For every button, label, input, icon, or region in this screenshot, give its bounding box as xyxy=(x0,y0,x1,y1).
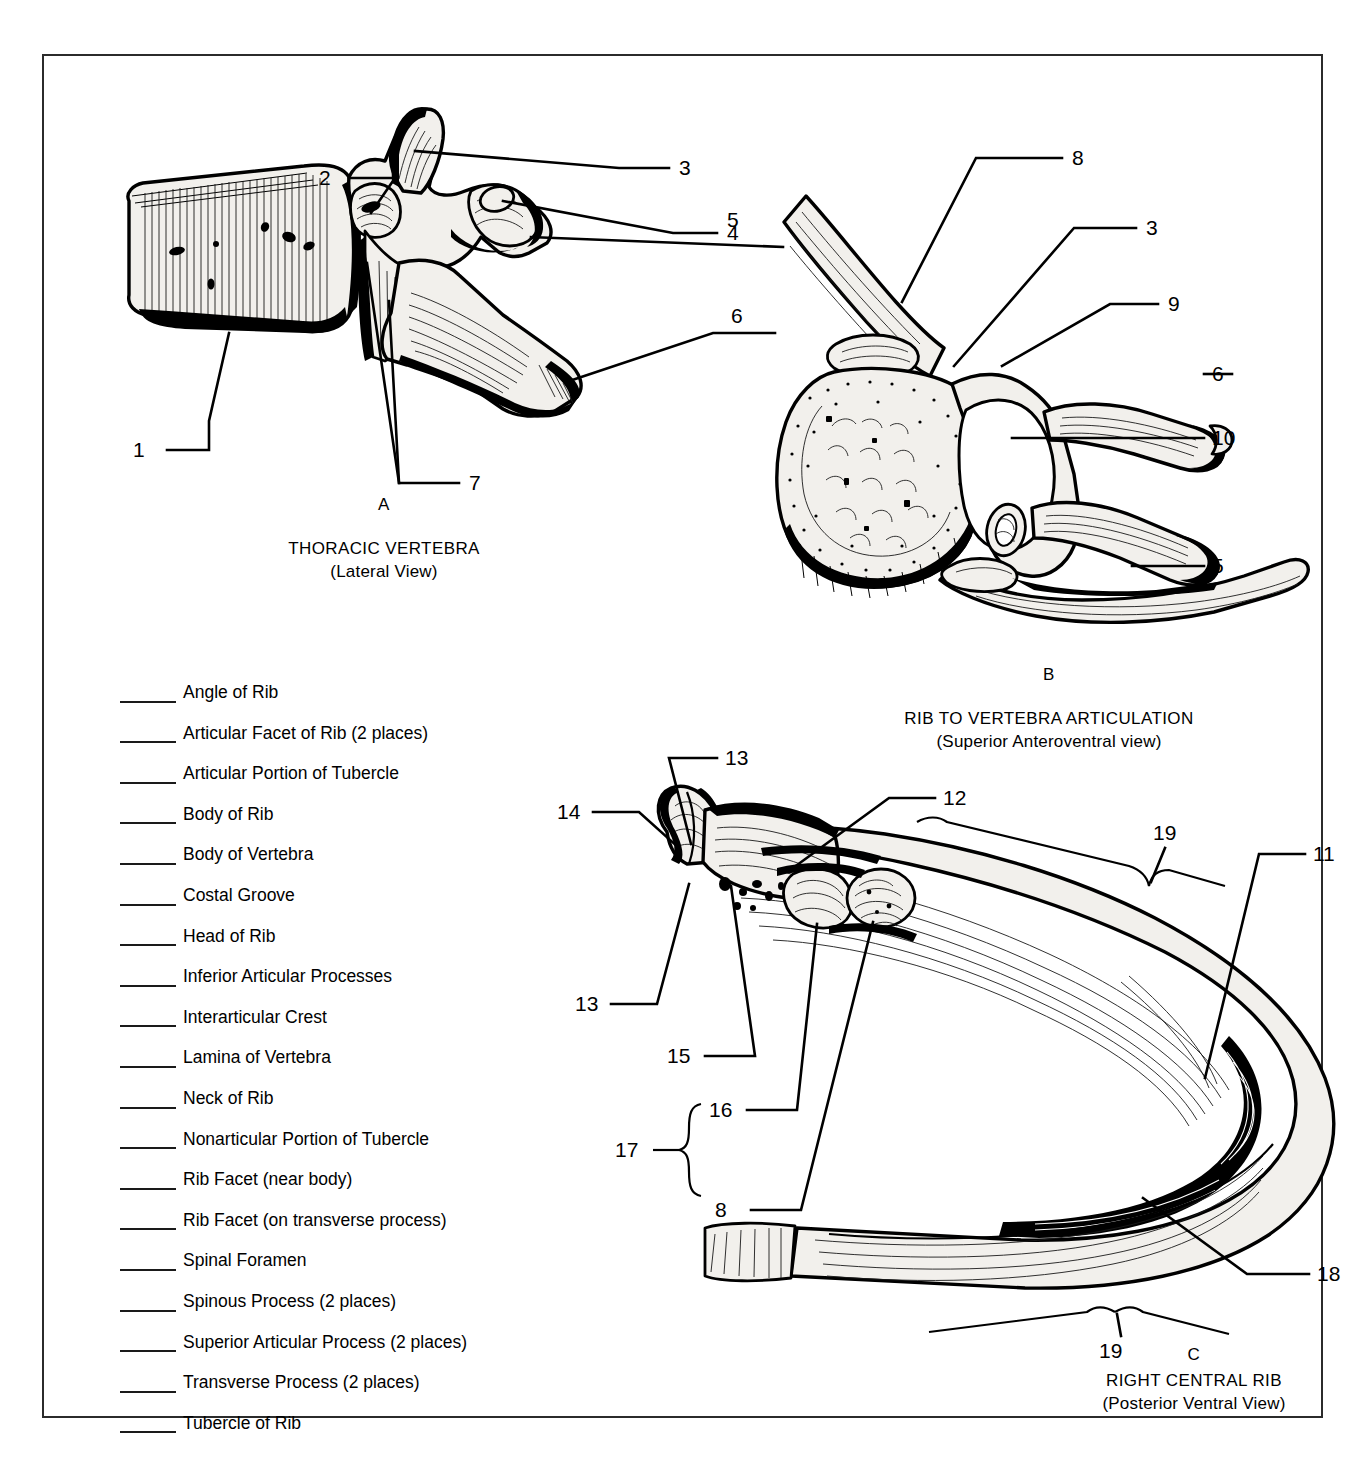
answer-label-13: Rib Facet (on transverse process) xyxy=(176,1212,447,1231)
answer-label-3: Body of Rib xyxy=(176,806,273,825)
answer-label-14: Spinal Foramen xyxy=(176,1252,307,1271)
answer-label-17: Transverse Process (2 places) xyxy=(176,1374,420,1393)
figure-b-letter: B xyxy=(884,664,1214,686)
callout-2: 2 xyxy=(319,166,331,189)
answer-label-11: Nonarticular Portion of Tubercle xyxy=(176,1131,429,1150)
answer-label-12: Rib Facet (near body) xyxy=(176,1171,352,1190)
answer-label-7: Inferior Articular Processes xyxy=(176,968,392,987)
figure-c-subtitle: (Posterior Ventral View) xyxy=(1044,1393,1344,1415)
figure-b-drawing: 8 3 9 6 10 5 xyxy=(744,126,1324,636)
answer-blank-18[interactable] xyxy=(120,1415,176,1433)
answer-label-2: Articular Portion of Tubercle xyxy=(176,765,399,784)
answer-row: Interarticular Crest xyxy=(120,987,590,1028)
answer-row: Angle of Rib xyxy=(120,662,590,703)
figure-a-thoracic-vertebra-lateral: 1 2 3 4 5 6 7 xyxy=(99,61,789,481)
answer-blank-3[interactable] xyxy=(120,806,176,824)
answer-label-18: Tubercle of Rib xyxy=(176,1415,301,1434)
answer-row: Nonarticular Portion of Tubercle xyxy=(120,1109,590,1150)
figure-a-title: THORACIC VERTEBRA xyxy=(274,538,494,560)
callout-18: 18 xyxy=(1317,1262,1340,1285)
answer-blank-13[interactable] xyxy=(120,1212,176,1230)
figure-c-letter: C xyxy=(1044,1344,1344,1366)
answer-label-6: Head of Rib xyxy=(176,928,275,947)
answer-blank-10[interactable] xyxy=(120,1091,176,1109)
answer-row: Body of Vertebra xyxy=(120,824,590,865)
callout-3: 3 xyxy=(679,156,691,179)
callout-6: 6 xyxy=(731,304,743,327)
answer-term-list: Angle of Rib Articular Facet of Rib (2 p… xyxy=(120,662,590,1433)
answer-label-9: Lamina of Vertebra xyxy=(176,1049,331,1068)
answer-blank-7[interactable] xyxy=(120,969,176,987)
answer-blank-0[interactable] xyxy=(120,685,176,703)
answer-blank-14[interactable] xyxy=(120,1253,176,1271)
figure-a-subtitle: (Lateral View) xyxy=(274,561,494,583)
figure-a-caption: A THORACIC VERTEBRA (Lateral View) xyxy=(274,494,494,583)
figure-c-right-central-rib: 13 12 14 19 11 13 15 16 8 xyxy=(529,736,1329,1346)
answer-row: Body of Rib xyxy=(120,784,590,825)
answer-label-5: Costal Groove xyxy=(176,887,295,906)
answer-blank-9[interactable] xyxy=(120,1050,176,1068)
callout-b-6: 6 xyxy=(1212,362,1224,385)
worksheet-frame: 1 2 3 4 5 6 7 A THORACIC VERTEBRA (Later… xyxy=(42,54,1323,1418)
figure-c-drawing: 13 12 14 19 11 13 15 16 8 xyxy=(529,736,1329,1346)
answer-row: Lamina of Vertebra xyxy=(120,1027,590,1068)
answer-row: Articular Facet of Rib (2 places) xyxy=(120,703,590,744)
answer-blank-5[interactable] xyxy=(120,888,176,906)
callout-19-upper: 19 xyxy=(1153,821,1176,844)
answer-row: Inferior Articular Processes xyxy=(120,946,590,987)
figure-c-caption: C RIGHT CENTRAL RIB (Posterior Ventral V… xyxy=(1044,1344,1344,1415)
callout-17: 17 xyxy=(615,1138,638,1161)
figure-a-letter: A xyxy=(274,494,494,516)
figure-b-rib-to-vertebra-articulation: 8 3 9 6 10 5 xyxy=(744,126,1324,636)
answer-blank-8[interactable] xyxy=(120,1009,176,1027)
answer-blank-16[interactable] xyxy=(120,1334,176,1352)
callout-5: 5 xyxy=(727,208,739,231)
callout-1: 1 xyxy=(133,438,145,461)
answer-blank-1[interactable] xyxy=(120,725,176,743)
callout-11: 11 xyxy=(1313,842,1335,865)
callout-b-3: 3 xyxy=(1146,216,1158,239)
answer-row: Superior Articular Process (2 places) xyxy=(120,1312,590,1353)
callout-15: 15 xyxy=(667,1044,690,1067)
answer-label-8: Interarticular Crest xyxy=(176,1009,327,1028)
answer-label-0: Angle of Rib xyxy=(176,684,278,703)
answer-row: Rib Facet (on transverse process) xyxy=(120,1190,590,1231)
answer-label-15: Spinous Process (2 places) xyxy=(176,1293,396,1312)
answer-label-1: Articular Facet of Rib (2 places) xyxy=(176,725,428,744)
answer-blank-2[interactable] xyxy=(120,766,176,784)
callout-8: 8 xyxy=(1072,146,1084,169)
callout-12: 12 xyxy=(943,786,966,809)
figure-a-drawing: 1 2 3 4 5 6 7 xyxy=(99,61,789,481)
figure-c-title: RIGHT CENTRAL RIB xyxy=(1044,1370,1344,1392)
answer-row: Rib Facet (near body) xyxy=(120,1149,590,1190)
answer-row: Tubercle of Rib xyxy=(120,1393,590,1434)
answer-blank-17[interactable] xyxy=(120,1375,176,1393)
answer-row: Head of Rib xyxy=(120,906,590,947)
answer-blank-12[interactable] xyxy=(120,1172,176,1190)
answer-blank-11[interactable] xyxy=(120,1131,176,1149)
answer-label-10: Neck of Rib xyxy=(176,1090,273,1109)
answer-label-4: Body of Vertebra xyxy=(176,846,313,865)
answer-row: Neck of Rib xyxy=(120,1068,590,1109)
answer-row: Costal Groove xyxy=(120,865,590,906)
answer-blank-15[interactable] xyxy=(120,1294,176,1312)
callout-b-5: 5 xyxy=(1212,554,1224,577)
answer-label-16: Superior Articular Process (2 places) xyxy=(176,1334,467,1353)
answer-blank-6[interactable] xyxy=(120,928,176,946)
callout-8-c: 8 xyxy=(715,1198,727,1221)
callout-13-upper: 13 xyxy=(725,746,748,769)
answer-blank-4[interactable] xyxy=(120,847,176,865)
callout-10: 10 xyxy=(1212,426,1235,449)
callout-16: 16 xyxy=(709,1098,732,1121)
callout-9: 9 xyxy=(1168,292,1180,315)
answer-row: Articular Portion of Tubercle xyxy=(120,743,590,784)
callout-7: 7 xyxy=(469,471,481,494)
figure-b-title: RIB TO VERTEBRA ARTICULATION xyxy=(884,708,1214,730)
answer-row: Spinal Foramen xyxy=(120,1230,590,1271)
answer-row: Transverse Process (2 places) xyxy=(120,1352,590,1393)
answer-row: Spinous Process (2 places) xyxy=(120,1271,590,1312)
